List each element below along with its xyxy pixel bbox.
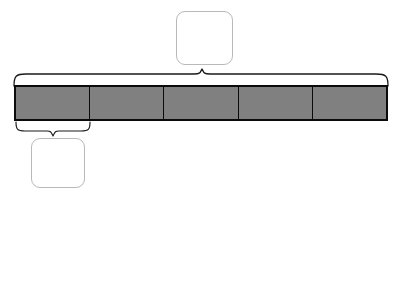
- tape-segment-3[interactable]: [164, 87, 238, 119]
- tape-segment-4[interactable]: [239, 87, 313, 119]
- tape-segment-1[interactable]: [16, 87, 90, 119]
- tape-diagram-bar: [14, 85, 388, 121]
- worksheet-canvas: =: [0, 0, 405, 284]
- unit-span-brace-icon: [14, 121, 92, 138]
- equation-row: =: [0, 226, 405, 276]
- tape-segment-5[interactable]: [313, 87, 386, 119]
- whole-amount-answer-box[interactable]: [176, 11, 233, 65]
- unit-amount-answer-box[interactable]: [31, 138, 85, 188]
- tape-segment-2[interactable]: [90, 87, 164, 119]
